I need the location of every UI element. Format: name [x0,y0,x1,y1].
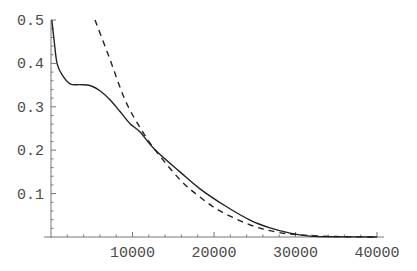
y-tick-label: 0.3 [17,100,44,117]
plot-area: 100002000030000400000.10.20.30.40.5 [0,0,417,271]
y-tick-label: 0.5 [17,13,44,30]
series-solid-line [52,20,377,237]
x-tick-label: 30000 [273,245,318,262]
series-group [52,20,377,237]
y-tick-label: 0.1 [17,187,44,204]
y-tick-label: 0.2 [17,143,44,160]
y-tick-label: 0.4 [17,56,44,73]
series-dashed-line [95,20,377,237]
x-tick-label: 10000 [110,245,155,262]
axes: 100002000030000400000.10.20.30.40.5 [17,13,400,262]
x-tick-label: 40000 [354,245,399,262]
x-tick-label: 20000 [191,245,236,262]
line-chart: 100002000030000400000.10.20.30.40.5 [0,0,417,271]
